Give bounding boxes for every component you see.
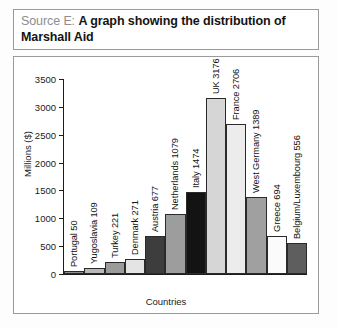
bar-label: Turkey 221 — [110, 213, 120, 258]
plot-area: 0500100015002000250030003500 Portugal 50… — [63, 79, 306, 275]
bar[interactable] — [267, 236, 287, 274]
bar-slot: Denmark 271 — [125, 79, 145, 274]
y-tick-label-3000: 3000 — [35, 101, 56, 112]
bar-slot: Yugoslavia 109 — [84, 79, 104, 274]
bar-slot: UK 3176 — [206, 79, 226, 274]
bar-label: Netherlands 1079 — [170, 138, 180, 210]
bar-label: Yugoslavia 109 — [89, 202, 99, 264]
y-tick-label-1000: 1000 — [35, 213, 56, 224]
chart-frame: Millions ($) 050010001500200025003000350… — [13, 56, 319, 314]
bar[interactable] — [125, 259, 145, 274]
bar-label: France 2706 — [231, 69, 241, 120]
y-tick-label-3500: 3500 — [35, 74, 56, 85]
x-axis-title: Countries — [14, 296, 318, 307]
chart-page: Source E: A graph showing the distributi… — [0, 0, 338, 328]
bar-slot: Netherlands 1079 — [165, 79, 185, 274]
bar-slot: Greece 694 — [267, 79, 287, 274]
y-tick-0 — [59, 274, 63, 275]
y-tick-2000 — [59, 163, 63, 164]
bar[interactable] — [206, 98, 226, 274]
title-text: Source E: A graph showing the distributi… — [21, 14, 311, 45]
bar[interactable] — [246, 197, 266, 274]
bar-slot: France 2706 — [226, 79, 246, 274]
y-tick-1000 — [59, 218, 63, 219]
y-tick-label-2500: 2500 — [35, 129, 56, 140]
y-tick-label-1500: 1500 — [35, 185, 56, 196]
bar-slot: West Germany 1389 — [246, 79, 266, 274]
bar[interactable] — [165, 214, 185, 274]
x-axis-line — [63, 274, 307, 275]
y-tick-3500 — [59, 79, 63, 80]
y-tick-3000 — [59, 107, 63, 108]
y-tick-label-0: 0 — [51, 269, 56, 280]
bar-slot: Portugal 50 — [64, 79, 84, 274]
source-label: Source E: — [21, 14, 75, 28]
bar-slot: Belgium/Luxembourg 556 — [287, 79, 307, 274]
bar-label: Greece 694 — [272, 184, 282, 232]
bar-slot: Italy 1474 — [186, 79, 206, 274]
y-axis-title: Millions ($) — [22, 131, 33, 177]
bar[interactable] — [145, 236, 165, 274]
bar[interactable] — [186, 192, 206, 274]
bar[interactable] — [226, 124, 246, 274]
bar-series: Portugal 50Yugoslavia 109Turkey 221Denma… — [64, 79, 307, 274]
bar-slot: Turkey 221 — [105, 79, 125, 274]
bar-label: Portugal 50 — [69, 221, 79, 267]
bar-label: Belgium/Luxembourg 556 — [292, 135, 302, 239]
y-tick-label-2000: 2000 — [35, 157, 56, 168]
bar[interactable] — [64, 271, 84, 274]
bar[interactable] — [84, 268, 104, 274]
bar-label: Denmark 271 — [130, 200, 140, 255]
bar[interactable] — [105, 262, 125, 274]
y-tick-2500 — [59, 135, 63, 136]
bar-label: Austria 677 — [150, 187, 160, 233]
bar-label: West Germany 1389 — [251, 110, 261, 193]
bar-label: UK 3176 — [211, 58, 221, 93]
source-title-box: Source E: A graph showing the distributi… — [13, 9, 319, 50]
y-tick-label-500: 500 — [40, 241, 56, 252]
bar[interactable] — [287, 243, 307, 274]
bar-slot: Austria 677 — [145, 79, 165, 274]
bar-label: Italy 1474 — [191, 149, 201, 188]
y-tick-500 — [59, 246, 63, 247]
y-tick-1500 — [59, 190, 63, 191]
